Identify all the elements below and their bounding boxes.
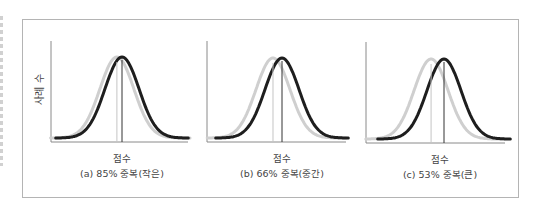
caption-a: (a) 85% 중복(작은) — [47, 166, 197, 180]
panel-a — [51, 41, 190, 142]
panel-b — [207, 41, 348, 142]
figure-plots — [0, 0, 541, 214]
x-axis-label-b: 점수 — [222, 151, 342, 165]
caption-b: (b) 66% 중복(중간) — [207, 166, 357, 180]
y-axis-label: 사례 수 — [31, 72, 46, 108]
panel-c — [366, 42, 511, 143]
caption-c: (c) 53% 중복(큰) — [365, 167, 515, 181]
comparison-curve — [51, 57, 190, 138]
x-axis-label-c: 점수 — [380, 152, 500, 166]
comparison-curve — [207, 58, 346, 138]
x-axis-label-a: 점수 — [62, 151, 182, 165]
